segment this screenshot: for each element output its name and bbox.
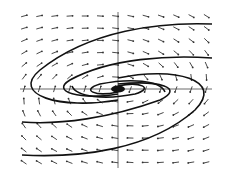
field-arrow bbox=[143, 15, 149, 17]
arrow-head-icon bbox=[54, 85, 56, 87]
arrow-head-icon bbox=[187, 162, 189, 164]
arrow-head-icon bbox=[192, 54, 194, 56]
field-arrow bbox=[189, 39, 194, 43]
field-arrow bbox=[173, 27, 178, 30]
arrow-head-icon bbox=[36, 160, 38, 162]
field-arrow bbox=[204, 112, 209, 116]
field-arrow bbox=[189, 50, 193, 54]
field-arrow bbox=[97, 65, 103, 66]
arrow-head-icon bbox=[159, 91, 161, 93]
arrow-head-icon bbox=[203, 115, 205, 117]
field-arrow bbox=[128, 64, 134, 66]
arrow-head-icon bbox=[177, 66, 179, 68]
arrow-head-icon bbox=[148, 28, 150, 30]
arrow-head-icon bbox=[132, 40, 134, 42]
field-arrow bbox=[37, 63, 42, 66]
arrow-head-icon bbox=[87, 39, 89, 41]
field-arrow bbox=[158, 150, 164, 151]
arrow-head-icon bbox=[36, 148, 38, 150]
arrow-head-icon bbox=[207, 54, 209, 56]
arrow-head-icon bbox=[127, 161, 129, 163]
arrow-head-icon bbox=[87, 75, 89, 77]
arrow-head-icon bbox=[177, 54, 179, 56]
field-arrow bbox=[188, 162, 194, 163]
arrow-head-icon bbox=[96, 161, 98, 163]
arrow-head-icon bbox=[132, 53, 134, 55]
arrow-head-icon bbox=[157, 162, 159, 164]
arrow-head-icon bbox=[189, 91, 191, 93]
field-arrow bbox=[112, 125, 118, 126]
arrow-head-icon bbox=[70, 85, 72, 87]
field-arrow bbox=[36, 27, 42, 29]
arrow-head-icon bbox=[102, 27, 104, 29]
field-arrow bbox=[97, 125, 103, 127]
arrow-head-icon bbox=[132, 78, 134, 80]
field-arrow bbox=[21, 15, 27, 17]
arrow-head-icon bbox=[127, 101, 129, 103]
field-arrow bbox=[52, 63, 57, 66]
field-arrow bbox=[97, 112, 103, 114]
arrow-head-icon bbox=[142, 137, 144, 139]
field-arrow bbox=[128, 52, 134, 54]
field-arrow bbox=[112, 162, 118, 163]
arrow-head-icon bbox=[81, 111, 83, 113]
arrow-head-icon bbox=[40, 74, 42, 76]
arrow-head-icon bbox=[71, 74, 73, 76]
field-arrow bbox=[204, 149, 210, 151]
arrow-head-icon bbox=[203, 138, 205, 140]
arrow-head-icon bbox=[96, 112, 98, 114]
arrow-head-icon bbox=[41, 62, 43, 64]
arrow-head-icon bbox=[163, 53, 165, 55]
field-arrow bbox=[23, 111, 25, 117]
arrow-head-icon bbox=[205, 91, 207, 93]
field-arrow bbox=[82, 162, 88, 164]
arrow-head-icon bbox=[157, 126, 159, 128]
arrow-head-icon bbox=[96, 149, 98, 151]
arrow-head-icon bbox=[41, 15, 43, 17]
arrow-head-icon bbox=[142, 102, 144, 104]
field-arrow bbox=[37, 161, 42, 164]
arrow-head-icon bbox=[144, 91, 146, 93]
arrow-head-icon bbox=[57, 15, 59, 17]
arrow-head-icon bbox=[148, 41, 150, 43]
arrow-head-icon bbox=[157, 114, 159, 116]
arrow-head-icon bbox=[127, 125, 129, 127]
field-arrow bbox=[67, 28, 73, 29]
arrow-head-icon bbox=[25, 62, 27, 64]
arrow-head-icon bbox=[128, 91, 130, 93]
arrow-head-icon bbox=[172, 162, 174, 164]
arrow-head-icon bbox=[26, 14, 28, 16]
field-arrow bbox=[82, 137, 88, 139]
arrow-head-icon bbox=[87, 63, 89, 65]
arrow-head-icon bbox=[207, 67, 209, 69]
arrow-head-icon bbox=[163, 28, 165, 30]
field-arrow bbox=[143, 51, 149, 53]
field-arrow bbox=[204, 38, 208, 42]
arrow-head-icon bbox=[148, 53, 150, 55]
arrow-head-icon bbox=[193, 41, 195, 43]
field-arrow bbox=[143, 126, 149, 127]
arrow-head-icon bbox=[206, 79, 208, 81]
arrow-head-icon bbox=[26, 50, 28, 52]
field-arrow bbox=[82, 112, 87, 115]
arrow-head-icon bbox=[132, 65, 134, 67]
field-arrow bbox=[173, 112, 178, 115]
arrow-head-icon bbox=[111, 161, 113, 163]
arrow-head-icon bbox=[111, 137, 113, 139]
field-arrow bbox=[205, 62, 207, 68]
field-arrow bbox=[112, 138, 118, 139]
field-arrow bbox=[204, 137, 210, 139]
arrow-head-icon bbox=[66, 160, 68, 162]
arrow-head-icon bbox=[81, 161, 83, 163]
field-arrow bbox=[51, 16, 57, 17]
arrow-head-icon bbox=[96, 136, 98, 138]
arrow-head-icon bbox=[66, 136, 68, 138]
field-arrow bbox=[37, 149, 42, 152]
arrow-head-icon bbox=[87, 51, 89, 53]
field-arrow bbox=[112, 28, 118, 29]
arrow-head-icon bbox=[72, 51, 74, 53]
arrow-head-icon bbox=[21, 135, 23, 137]
arrow-head-icon bbox=[38, 98, 40, 100]
field-arrow bbox=[158, 113, 164, 115]
field-arrow bbox=[38, 111, 41, 116]
